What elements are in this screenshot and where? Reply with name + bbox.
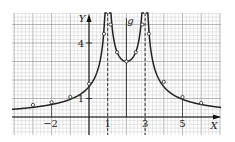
x-tick-label: 1 bbox=[105, 118, 111, 129]
y-tick-label: 1 bbox=[78, 93, 84, 104]
curve-point-marker bbox=[162, 80, 165, 83]
curve-point-marker bbox=[141, 23, 144, 26]
curve-point-marker bbox=[125, 60, 128, 63]
curve-point-marker bbox=[200, 101, 203, 104]
curve-point-marker bbox=[87, 82, 90, 85]
curve-point-marker bbox=[181, 95, 184, 98]
curve-point-marker bbox=[102, 32, 105, 35]
curve-point-marker bbox=[50, 101, 53, 104]
curve-point-marker bbox=[147, 32, 150, 35]
x-tick-label: 3 bbox=[142, 118, 148, 129]
x-axis-label: X bbox=[209, 120, 218, 131]
x-tick-label: −2 bbox=[43, 118, 58, 129]
curve-point-marker bbox=[109, 23, 112, 26]
curve-point-marker bbox=[115, 51, 118, 54]
function-graph: −213514XYg bbox=[0, 0, 235, 142]
curve-point-marker bbox=[31, 103, 34, 106]
curve-point-marker bbox=[69, 95, 72, 98]
curve-point-marker bbox=[134, 51, 137, 54]
y-tick-label: 4 bbox=[78, 38, 84, 49]
x-tick-label: 5 bbox=[179, 118, 185, 129]
function-label: g bbox=[127, 15, 133, 26]
